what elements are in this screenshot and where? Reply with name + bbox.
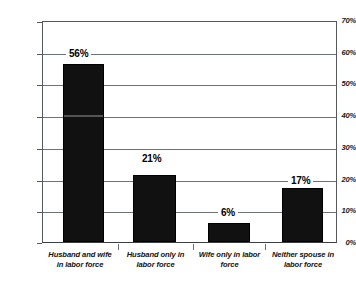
- x-axis-label-line: labor force: [266, 260, 340, 270]
- bar-chart: 70% 60% 50% 40% 30% 20% 10% 0% 5: [0, 0, 356, 289]
- x-axis-label-line: force: [194, 260, 265, 270]
- x-axis-label-line: Husband and wife: [43, 250, 117, 260]
- bar-value-label-neither-spouse: 17%: [288, 175, 313, 186]
- y-axis-tick: [37, 117, 42, 118]
- x-axis-label-line: in labor force: [43, 260, 117, 270]
- bar-print-artifact: [64, 115, 103, 117]
- plot-area: 56% 21% 6% 17%: [42, 21, 337, 243]
- y-axis-tick: [37, 54, 42, 55]
- y-axis-tick: [37, 181, 42, 182]
- y-axis-tick: [37, 22, 42, 23]
- x-axis-label-line: Husband only in: [119, 250, 192, 260]
- x-axis-label-line: Neither spouse in: [266, 250, 340, 260]
- bar-value-label-wife-only: 6%: [218, 207, 238, 218]
- y-axis-tick: [37, 212, 42, 213]
- bar-value-label-husband-and-wife: 56%: [66, 48, 91, 59]
- y-axis-tick: [37, 243, 42, 244]
- x-axis-label-line: Wife only in labor: [194, 250, 265, 260]
- bar-wife-only: [208, 223, 250, 242]
- y-axis-tick: [37, 149, 42, 150]
- bar-value-label-husband-only: 21%: [139, 153, 164, 164]
- x-axis-label-husband-only: Husband only in labor force: [119, 250, 192, 269]
- bar-husband-only: [133, 175, 176, 242]
- x-axis-label-line: labor force: [119, 260, 192, 270]
- x-axis-label-husband-and-wife: Husband and wife in labor force: [43, 250, 117, 269]
- x-axis-label-wife-only: Wife only in labor force: [194, 250, 265, 269]
- x-axis-label-neither-spouse: Neither spouse in labor force: [266, 250, 340, 269]
- bar-neither-spouse: [282, 188, 323, 242]
- y-axis-tick: [37, 85, 42, 86]
- bar-husband-and-wife: [63, 64, 104, 242]
